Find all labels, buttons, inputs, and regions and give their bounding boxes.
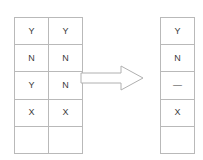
result-cell-r3c1: — bbox=[161, 72, 195, 99]
table-row: N N bbox=[15, 45, 83, 72]
table-row: X bbox=[161, 99, 195, 126]
source-table: Y Y N N Y N X X bbox=[14, 17, 83, 154]
diagram-canvas: Y Y N N Y N X X bbox=[0, 0, 203, 160]
table-row: — bbox=[161, 72, 195, 99]
source-cell-r5c2 bbox=[49, 126, 83, 153]
source-cell-r2c2: N bbox=[49, 45, 83, 72]
source-cell-r3c1: Y bbox=[15, 72, 49, 99]
source-cell-r1c2: Y bbox=[49, 18, 83, 45]
result-cell-r1c1: Y bbox=[161, 18, 195, 45]
table-row: Y Y bbox=[15, 18, 83, 45]
source-cell-r2c1: N bbox=[15, 45, 49, 72]
table-row: N bbox=[161, 45, 195, 72]
table-row: Y bbox=[161, 18, 195, 45]
table-row bbox=[161, 126, 195, 153]
table-row: X X bbox=[15, 99, 83, 126]
source-cell-r3c2: N bbox=[49, 72, 83, 99]
source-table-body: Y Y N N Y N X X bbox=[15, 18, 83, 154]
table-row: Y N bbox=[15, 72, 83, 99]
result-table-body: Y N — X bbox=[161, 18, 195, 154]
result-cell-r2c1: N bbox=[161, 45, 195, 72]
result-table: Y N — X bbox=[160, 17, 195, 154]
source-cell-r4c1: X bbox=[15, 99, 49, 126]
right-arrow-icon bbox=[80, 64, 144, 92]
table-row bbox=[15, 126, 83, 153]
result-cell-r5c1 bbox=[161, 126, 195, 153]
source-cell-r5c1 bbox=[15, 126, 49, 153]
source-cell-r4c2: X bbox=[49, 99, 83, 126]
result-cell-r4c1: X bbox=[161, 99, 195, 126]
source-cell-r1c1: Y bbox=[15, 18, 49, 45]
